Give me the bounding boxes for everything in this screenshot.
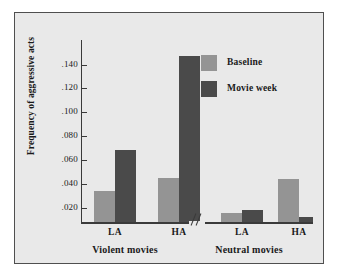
legend-item-movie-week: Movie week — [201, 79, 311, 105]
legend-item-baseline: Baseline — [201, 53, 311, 79]
legend-label: Baseline — [227, 57, 262, 67]
x-group-label-neutral: Neutral movies — [189, 244, 309, 255]
chart-legend: Baseline Movie week — [201, 53, 311, 105]
y-tick-label: .140 — [15, 59, 78, 69]
legend-label: Movie week — [227, 83, 277, 93]
bar-violent-ha-movie-week — [179, 56, 200, 223]
legend-swatch-icon — [201, 55, 217, 71]
bar-neutral-ha-baseline — [278, 179, 299, 223]
y-tick-label: .040 — [15, 178, 78, 188]
y-tick-label: .020 — [15, 202, 78, 212]
x-label-neutral-la: LA — [220, 227, 264, 237]
bar-violent-ha-baseline — [158, 178, 179, 223]
y-tick-label: .120 — [15, 82, 78, 92]
legend-swatch-icon — [201, 81, 217, 97]
axis-break-icon — [189, 213, 205, 227]
x-label-violent-ha: HA — [157, 227, 201, 237]
bar-violent-la-movie-week — [115, 150, 136, 223]
y-tick-label: .080 — [15, 130, 78, 140]
chart-figure: Frequency of aggressive acts .140 .120 .… — [14, 12, 324, 264]
y-tick-label: .060 — [15, 154, 78, 164]
x-label-violent-la: LA — [93, 227, 137, 237]
y-tick-label: .100 — [15, 106, 78, 116]
x-label-neutral-ha: HA — [277, 227, 321, 237]
bar-violent-la-baseline — [94, 191, 115, 223]
x-group-label-violent: Violent movies — [65, 244, 185, 255]
y-axis-label: Frequency of aggressive acts — [26, 26, 36, 166]
